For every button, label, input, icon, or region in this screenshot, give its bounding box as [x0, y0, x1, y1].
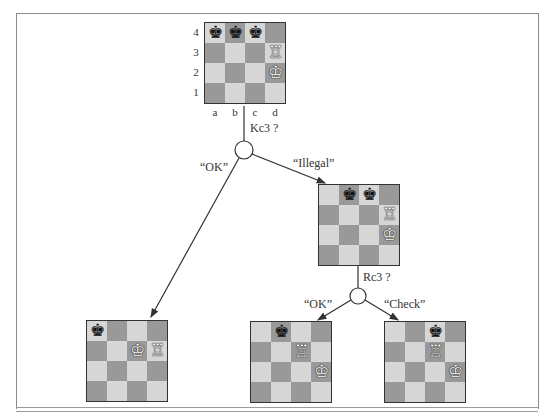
board-square — [251, 362, 271, 382]
board-square: ♚ — [205, 23, 225, 43]
board-square — [385, 342, 405, 362]
black-king-icon: ♚ — [342, 185, 357, 205]
decision-node-1 — [235, 141, 253, 159]
board-square — [405, 382, 425, 402]
board-square: ♔ — [445, 362, 465, 382]
board-square — [405, 322, 425, 342]
board-square — [405, 342, 425, 362]
board-square — [271, 342, 291, 362]
board-square — [291, 382, 311, 402]
rank-label: 2 — [191, 66, 201, 78]
board-square — [147, 361, 167, 381]
board-square — [385, 382, 405, 402]
bottom-middle-board: ♚♖♔ — [250, 321, 332, 403]
bottom-left-board: ♚♔♖ — [86, 320, 168, 402]
rank-label: 1 — [191, 86, 201, 98]
board-square — [319, 245, 339, 265]
file-label: d — [265, 106, 285, 118]
white-king-icon: ♔ — [268, 63, 283, 83]
board-square — [425, 362, 445, 382]
board-square — [245, 63, 265, 83]
board-square — [205, 83, 225, 103]
board-square — [379, 245, 399, 265]
board-square — [291, 362, 311, 382]
board-square — [265, 83, 285, 103]
board-square: ♚ — [425, 322, 445, 342]
white-rook-icon: ♖ — [428, 342, 443, 362]
white-king-icon: ♔ — [382, 225, 397, 245]
board-square — [87, 341, 107, 361]
file-label: b — [225, 106, 245, 118]
white-rook-icon: ♖ — [150, 341, 165, 361]
black-king-icon: ♚ — [208, 23, 223, 43]
board-square — [425, 382, 445, 402]
white-rook-icon: ♖ — [268, 43, 283, 63]
white-king-icon: ♔ — [448, 362, 463, 382]
black-king-icon: ♚ — [428, 322, 443, 342]
board-square — [147, 321, 167, 341]
board-square — [127, 361, 147, 381]
board-square — [107, 341, 127, 361]
board-square — [311, 342, 331, 362]
rank-label: 4 — [191, 26, 201, 38]
board-square — [445, 342, 465, 362]
decision-node-2 — [350, 288, 366, 304]
board-square — [265, 23, 285, 43]
board-square — [225, 43, 245, 63]
root-board: ♚♚♚♖♔ — [204, 22, 286, 104]
board-square: ♚ — [271, 322, 291, 342]
board-square: ♚ — [359, 185, 379, 205]
board-square — [225, 83, 245, 103]
board-square — [379, 185, 399, 205]
white-rook-icon: ♖ — [294, 342, 309, 362]
edge-label-check: “Check” — [384, 297, 425, 312]
board-square — [339, 225, 359, 245]
board-square — [445, 322, 465, 342]
bottom-right-board: ♚♖♔ — [384, 321, 466, 403]
board-square: ♔ — [379, 225, 399, 245]
middle-board: ♚♚♖♔ — [318, 184, 400, 266]
board-square — [385, 362, 405, 382]
black-king-icon: ♚ — [228, 23, 243, 43]
board-square — [359, 245, 379, 265]
board-square — [385, 322, 405, 342]
file-label: a — [205, 106, 225, 118]
edge-label-ok: “OK” — [200, 160, 228, 175]
board-square: ♚ — [339, 185, 359, 205]
board-square — [339, 245, 359, 265]
black-king-icon: ♚ — [274, 322, 289, 342]
board-square — [251, 322, 271, 342]
board-square — [205, 63, 225, 83]
board-square — [405, 362, 425, 382]
black-king-icon: ♚ — [248, 23, 263, 43]
board-square: ♔ — [127, 341, 147, 361]
board-square — [87, 361, 107, 381]
board-square — [225, 63, 245, 83]
move-label-rc3: Rc3 ? — [363, 270, 391, 285]
board-square — [319, 185, 339, 205]
board-square — [339, 205, 359, 225]
board-square: ♖ — [147, 341, 167, 361]
board-square: ♔ — [265, 63, 285, 83]
board-square: ♚ — [245, 23, 265, 43]
board-square — [127, 381, 147, 401]
board-square: ♖ — [379, 205, 399, 225]
board-square — [245, 43, 265, 63]
board-square — [271, 362, 291, 382]
board-square — [147, 381, 167, 401]
board-square — [359, 205, 379, 225]
board-square — [359, 225, 379, 245]
white-king-icon: ♔ — [130, 341, 145, 361]
file-label: c — [245, 106, 265, 118]
board-square — [319, 225, 339, 245]
rank-label: 3 — [191, 46, 201, 58]
move-label-kc3: Kc3 ? — [250, 121, 278, 136]
board-square — [319, 205, 339, 225]
board-square: ♚ — [225, 23, 245, 43]
board-square — [311, 322, 331, 342]
white-king-icon: ♔ — [314, 362, 329, 382]
board-square — [445, 382, 465, 402]
board-square — [87, 381, 107, 401]
board-square: ♖ — [265, 43, 285, 63]
board-square — [291, 322, 311, 342]
